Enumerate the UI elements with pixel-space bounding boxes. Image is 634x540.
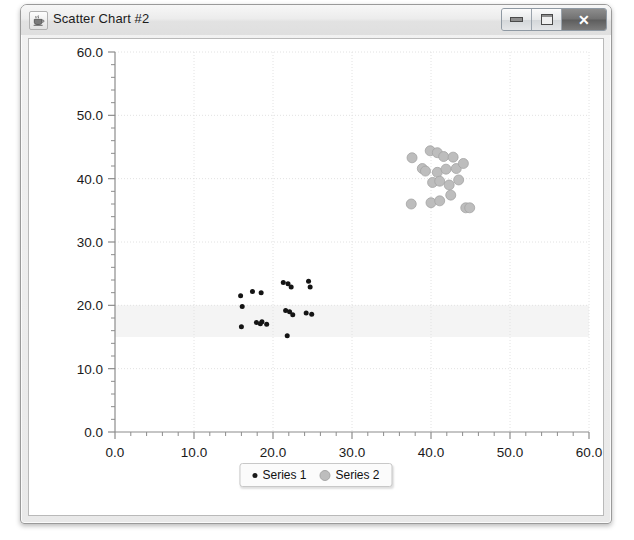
x-tick-label: 0.0 — [106, 445, 125, 460]
minimize-icon — [510, 17, 523, 22]
y-tick-label: 30.0 — [77, 235, 103, 250]
window-controls: ✕ — [501, 8, 607, 31]
data-point — [435, 196, 445, 206]
data-point — [448, 152, 458, 162]
series-2-marker-icon — [320, 470, 331, 481]
data-point — [285, 333, 290, 338]
data-point — [259, 290, 264, 295]
y-tick-label: 10.0 — [77, 362, 103, 377]
data-point — [439, 152, 449, 162]
data-point — [309, 312, 314, 317]
data-point — [250, 289, 255, 294]
y-tick-label: 50.0 — [77, 108, 103, 123]
data-point — [306, 279, 311, 284]
data-point — [458, 158, 468, 168]
x-tick-label: 40.0 — [418, 445, 444, 460]
data-point — [264, 322, 269, 327]
x-tick-label: 20.0 — [260, 445, 286, 460]
application-window: Scatter Chart #2 ✕ 0.010.020.030.040.050… — [20, 4, 612, 524]
maximize-button[interactable] — [532, 9, 562, 30]
close-icon: ✕ — [578, 13, 590, 27]
x-tick-label: 10.0 — [181, 445, 207, 460]
java-coffee-cup-icon — [29, 11, 48, 30]
data-point — [289, 284, 294, 289]
data-point — [454, 175, 464, 185]
chart-legend: Series 1 Series 2 — [239, 463, 392, 487]
x-tick-label: 30.0 — [339, 445, 365, 460]
y-tick-label: 40.0 — [77, 172, 103, 187]
x-tick-label: 50.0 — [497, 445, 523, 460]
y-tick-label: 20.0 — [77, 298, 103, 313]
data-point — [287, 309, 292, 314]
data-point — [240, 304, 245, 309]
data-point — [304, 310, 309, 315]
data-point — [258, 321, 263, 326]
data-point — [435, 176, 445, 186]
close-button[interactable]: ✕ — [562, 9, 606, 30]
chart-panel[interactable]: 0.010.020.030.040.050.060.00.010.020.030… — [28, 38, 604, 516]
y-tick-label: 60.0 — [77, 45, 103, 60]
maximize-icon — [541, 14, 553, 25]
data-point — [238, 293, 243, 298]
legend-item-series-1[interactable]: Series 1 — [252, 468, 306, 482]
data-point — [308, 284, 313, 289]
series-1-marker-icon — [252, 473, 257, 478]
legend-label-series-2: Series 2 — [336, 468, 380, 482]
data-point — [281, 280, 286, 285]
scatter-chart[interactable]: 0.010.020.030.040.050.060.00.010.020.030… — [29, 39, 603, 515]
y-tick-label: 0.0 — [84, 425, 103, 440]
x-tick-label: 60.0 — [576, 445, 602, 460]
data-point — [446, 190, 456, 200]
data-point — [239, 324, 244, 329]
data-point — [420, 166, 430, 176]
data-point — [406, 199, 416, 209]
data-point — [441, 164, 451, 174]
screenshot-root: Scatter Chart #2 ✕ 0.010.020.030.040.050… — [0, 0, 634, 540]
title-bar[interactable]: Scatter Chart #2 ✕ — [21, 5, 611, 35]
minimize-button[interactable] — [502, 9, 532, 30]
legend-label-series-1: Series 1 — [262, 468, 306, 482]
data-point — [465, 203, 475, 213]
window-title: Scatter Chart #2 — [53, 11, 149, 26]
legend-item-series-2[interactable]: Series 2 — [320, 468, 380, 482]
data-point — [407, 153, 417, 163]
data-point — [426, 198, 436, 208]
data-point — [444, 180, 454, 190]
